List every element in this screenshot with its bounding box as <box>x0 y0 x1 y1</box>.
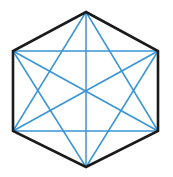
hexagon-diagram <box>0 0 173 177</box>
hexagon-figure-container <box>0 0 173 177</box>
